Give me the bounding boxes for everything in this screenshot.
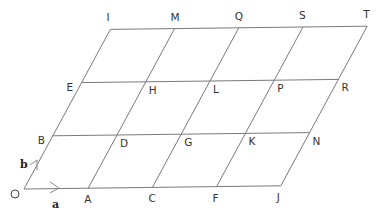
point-label-s: S xyxy=(299,9,306,21)
point-label-j: J xyxy=(276,191,280,203)
point-label-b: B xyxy=(38,134,45,146)
slanted-grid-line xyxy=(152,28,238,188)
point-label-l: L xyxy=(213,83,219,95)
point-label-a: A xyxy=(84,193,92,205)
point-label-d: D xyxy=(120,137,128,149)
point-labels: ACFJBDGKNEHLPRIMQST xyxy=(38,8,370,205)
point-label-p: P xyxy=(277,82,283,94)
vector-b-arrowhead-icon xyxy=(30,160,37,170)
point-label-q: Q xyxy=(235,10,243,22)
vector-b-label: b xyxy=(20,158,28,171)
point-label-g: G xyxy=(184,136,192,148)
point-label-n: N xyxy=(313,135,321,147)
grid-lines xyxy=(24,26,367,189)
point-label-e: E xyxy=(67,81,74,93)
point-label-m: M xyxy=(171,11,180,23)
point-label-r: R xyxy=(341,81,348,93)
vector-a-arrowhead-icon xyxy=(50,182,59,193)
origin-marker-icon xyxy=(11,190,19,198)
point-label-h: H xyxy=(149,84,157,96)
point-label-f: F xyxy=(213,192,219,204)
point-label-i: I xyxy=(106,11,109,23)
slanted-grid-line xyxy=(281,26,367,186)
horizontal-grid-line xyxy=(110,26,367,29)
point-label-c: C xyxy=(148,192,155,204)
vector-a-label: a xyxy=(52,198,59,211)
point-label-t: T xyxy=(362,8,370,20)
point-label-k: K xyxy=(248,135,256,147)
slanted-grid-line xyxy=(88,29,174,189)
lattice-diagram: ACFJBDGKNEHLPRIMQST a b xyxy=(0,0,384,218)
slanted-grid-line xyxy=(217,27,303,187)
